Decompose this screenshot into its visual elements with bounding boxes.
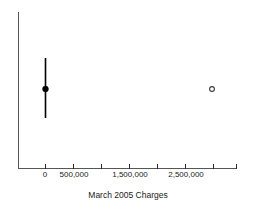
x-axis-title: March 2005 Charges bbox=[88, 190, 167, 200]
data-point-open bbox=[210, 87, 215, 92]
x-tick-label-500000: 500,000 bbox=[60, 170, 89, 179]
x-tick-label-2500000: 2,500,000 bbox=[168, 170, 204, 179]
data-point-filled bbox=[43, 86, 49, 92]
x-tick-label-0: 0 bbox=[43, 170, 48, 179]
series-group-2 bbox=[210, 87, 215, 92]
series-group-1 bbox=[43, 58, 49, 118]
x-tick-label-1500000: 1,500,000 bbox=[112, 170, 148, 179]
scatter-plot-canvas: 0 500,000 1,500,000 2,500,000 March 2005… bbox=[0, 0, 257, 211]
chart-figure: 0 500,000 1,500,000 2,500,000 March 2005… bbox=[0, 0, 257, 211]
x-axis-ticks bbox=[46, 164, 237, 169]
x-axis-tick-labels: 0 500,000 1,500,000 2,500,000 bbox=[43, 170, 205, 179]
